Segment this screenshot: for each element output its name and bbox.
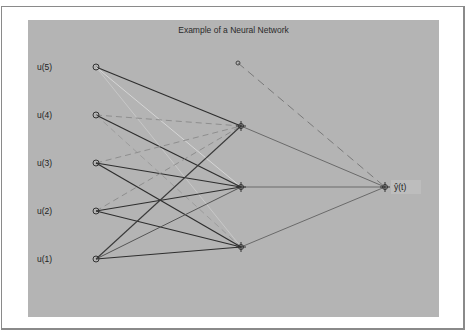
input-label-u5: u(5): [37, 62, 52, 72]
input-hidden-connections: [96, 67, 241, 259]
output-label: ŷ(t): [391, 180, 421, 194]
network-diagram: [0, 0, 467, 332]
input-label-u4: u(4): [37, 110, 52, 120]
hidden-nodes: [236, 121, 246, 252]
input-label-u1: u(1): [37, 254, 52, 264]
input-label-u3: u(3): [37, 158, 52, 168]
hidden-output-connections: [238, 63, 385, 247]
input-label-u2: u(2): [37, 206, 52, 216]
figure-title: Example of a Neural Network: [0, 25, 467, 35]
